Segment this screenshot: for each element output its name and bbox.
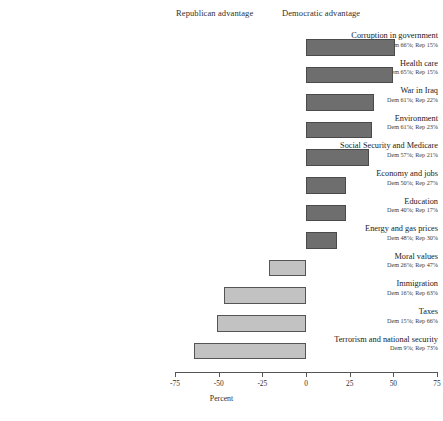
- bar-moral-values: [269, 260, 306, 277]
- bar-health-care: [306, 67, 393, 84]
- x-axis-title: Percent: [0, 394, 443, 403]
- x-tick-mark: [350, 372, 351, 377]
- bar-economy-and-jobs: [306, 177, 346, 194]
- bar-taxes: [217, 315, 306, 332]
- bar-environment: [306, 122, 372, 139]
- bar-terrorism-and-national-security: [194, 343, 306, 360]
- x-tick-label: -50: [214, 379, 224, 388]
- bar-energy-and-gas-prices: [306, 232, 337, 249]
- x-tick-label: 25: [346, 379, 353, 388]
- x-tick-label: -75: [170, 379, 180, 388]
- diverging-bar-chart: Republican advantage Democratic advantag…: [0, 0, 443, 421]
- x-tick-mark: [437, 372, 438, 377]
- bar-immigration: [224, 287, 306, 304]
- x-tick-label: 75: [433, 379, 440, 388]
- x-tick-mark: [393, 372, 394, 377]
- x-tick-label: -25: [257, 379, 267, 388]
- x-tick-label: 50: [390, 379, 397, 388]
- x-tick-mark: [262, 372, 263, 377]
- x-tick-mark: [306, 372, 307, 377]
- bar-social-security-and-medicare: [306, 149, 369, 166]
- bar-education: [306, 205, 346, 222]
- bar-war-in-iraq: [306, 94, 374, 111]
- bar-corruption-in-government: [306, 39, 395, 56]
- x-tick-label: 0: [304, 379, 308, 388]
- x-tick-mark: [219, 372, 220, 377]
- plot-area: [175, 36, 437, 370]
- republican-advantage-header: Republican advantage: [176, 8, 253, 18]
- x-tick-mark: [175, 372, 176, 377]
- democratic-advantage-header: Democratic advantage: [282, 8, 360, 18]
